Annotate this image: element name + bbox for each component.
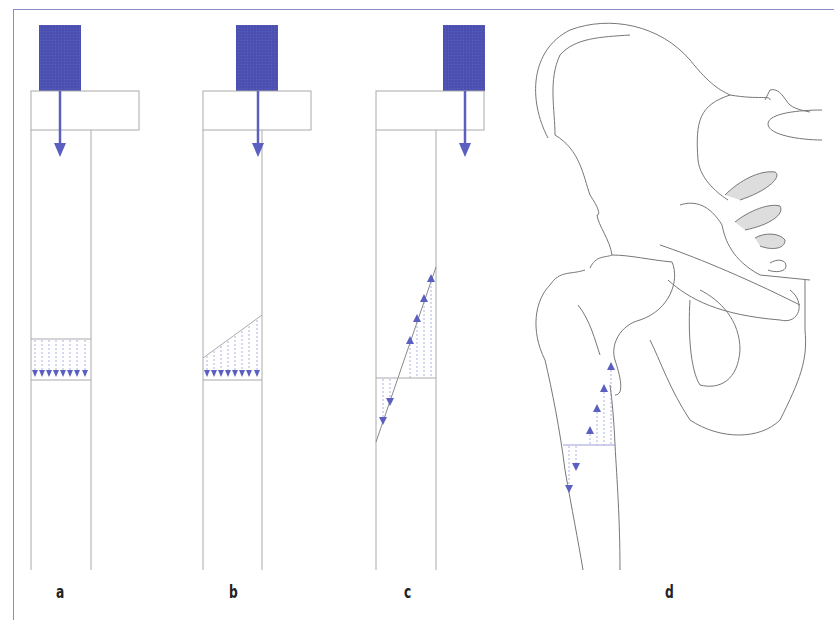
load-block xyxy=(443,25,485,91)
cap-plate xyxy=(31,91,139,130)
stress-arrows xyxy=(32,370,88,377)
stress-arrows xyxy=(204,370,260,377)
panel-d xyxy=(536,23,822,570)
panel-b xyxy=(203,25,311,570)
panel-a xyxy=(31,25,139,570)
stress-arrows xyxy=(379,274,435,425)
femur-stress-arrows xyxy=(565,362,615,493)
load-arrow-icon xyxy=(54,143,66,157)
panel-label-a: a xyxy=(56,582,64,602)
panel-c xyxy=(376,25,485,570)
load-block xyxy=(236,25,278,91)
panel-label-c: c xyxy=(404,582,411,602)
panel-label-b: b xyxy=(229,582,238,602)
load-arrow-icon xyxy=(459,143,471,157)
load-block xyxy=(39,25,81,91)
panel-label-d: d xyxy=(665,582,674,602)
